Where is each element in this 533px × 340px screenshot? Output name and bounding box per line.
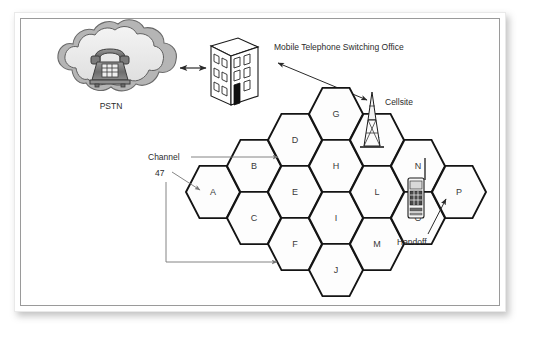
hex-cell-label: B [251, 161, 257, 171]
hex-cell-label: F [292, 239, 298, 249]
hex-cell-label: P [456, 187, 462, 197]
hex-cell-label: C [251, 213, 258, 223]
hex-cell-label: E [292, 187, 298, 197]
cellsite-label: Cellsite [385, 97, 413, 107]
channel-number-label: 47 [155, 168, 165, 178]
hex-cell-label: A [210, 187, 216, 197]
cellular-network-diagram: PSTN [0, 0, 533, 340]
hex-cell-label: I [335, 213, 338, 223]
handoff-label: Handoff [397, 237, 427, 247]
hex-cell-label: G [332, 109, 339, 119]
hex-cell-label: D [292, 135, 299, 145]
office-building-icon [211, 38, 258, 105]
mtso-label: Mobile Telephone Switching Office [274, 42, 404, 52]
pstn-node: PSTN [58, 20, 177, 111]
hex-cell-label: N [415, 161, 422, 171]
channel-label: Channel [148, 152, 180, 162]
hex-cell-label: H [333, 161, 340, 171]
figure-root: PSTN [0, 0, 533, 340]
hex-cell-label: L [374, 187, 379, 197]
hex-grid: ABCDEFGHIJKLMNOP [186, 88, 486, 296]
mtso-node: Mobile Telephone Switching Office [211, 38, 404, 105]
hex-cell-label: M [373, 239, 381, 249]
pstn-label: PSTN [100, 101, 123, 111]
hex-cell-label: J [334, 265, 339, 275]
